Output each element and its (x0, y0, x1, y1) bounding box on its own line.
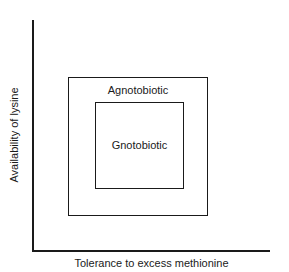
gnotobiotic-label: Gnotobiotic (95, 139, 184, 151)
x-axis-label: Tolerance to excess methionine (33, 257, 270, 269)
agnotobiotic-label: Agnotobiotic (68, 84, 208, 96)
y-axis (32, 20, 34, 252)
y-axis-label: Availability of lysine (8, 87, 20, 182)
x-axis (32, 250, 270, 252)
